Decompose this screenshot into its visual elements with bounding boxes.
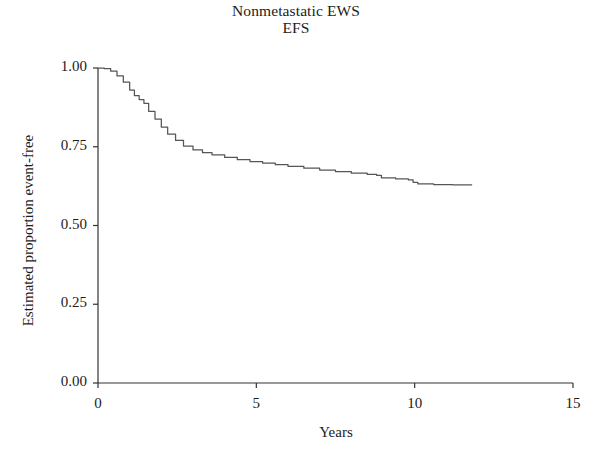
- axes-group: [93, 68, 573, 388]
- chart-figure: Nonmetastatic EWS EFS Estimated proporti…: [0, 0, 592, 451]
- survival-curve-line: [98, 68, 472, 185]
- data-series-group: [98, 68, 472, 185]
- plot-area: [0, 0, 592, 451]
